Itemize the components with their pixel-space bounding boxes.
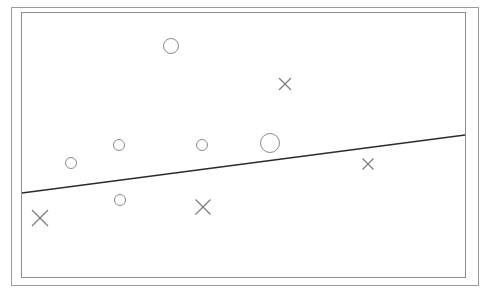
figure-container: [0, 0, 485, 293]
scatter-plot-canvas: [0, 0, 485, 293]
data-point-cross: [32, 210, 48, 226]
data-point-cross: [196, 200, 211, 215]
data-point-circle: [164, 39, 179, 54]
frame-outer-border: [12, 8, 479, 286]
data-point-cross: [279, 78, 291, 90]
circle-marker-group: [66, 39, 280, 206]
data-point-circle: [261, 134, 280, 153]
data-point-circle: [66, 158, 77, 169]
data-point-circle: [115, 195, 126, 206]
data-point-circle: [114, 140, 125, 151]
data-point-cross: [363, 159, 374, 170]
frame-inner-border: [22, 13, 466, 278]
data-point-circle: [197, 140, 208, 151]
cross-marker-group: [32, 78, 374, 226]
separating-line: [22, 135, 465, 193]
